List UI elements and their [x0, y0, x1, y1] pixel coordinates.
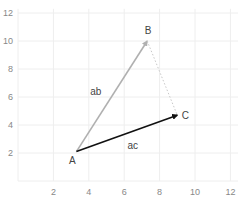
x-tick-label: 4 [86, 187, 91, 197]
y-tick-label: 6 [8, 92, 13, 102]
x-tick-label: 2 [51, 187, 56, 197]
vector-chart: 2468101224681012 abac ABC [0, 0, 238, 201]
grid [18, 9, 238, 181]
x-tick-label: 8 [157, 187, 162, 197]
point-label-a: A [69, 155, 76, 166]
x-tick-label: 12 [225, 187, 235, 197]
segments: abac [76, 41, 177, 152]
axis-ticks: 2468101224681012 [3, 8, 235, 197]
chart-canvas: 2468101224681012 abac ABC [0, 0, 238, 201]
y-tick-label: 12 [3, 8, 13, 18]
y-tick-label: 10 [3, 36, 13, 46]
point-label-c: C [182, 110, 189, 121]
segment-label-ab: ab [90, 86, 102, 97]
y-tick-label: 4 [8, 120, 13, 130]
segment-dotted-line [147, 41, 177, 115]
y-tick-label: 8 [8, 64, 13, 74]
point-label-b: B [145, 25, 152, 36]
x-tick-label: 10 [190, 187, 200, 197]
x-tick-label: 6 [122, 187, 127, 197]
segment-ab-line [76, 41, 147, 152]
y-tick-label: 2 [8, 148, 13, 158]
segment-label-ac: ac [128, 140, 139, 151]
